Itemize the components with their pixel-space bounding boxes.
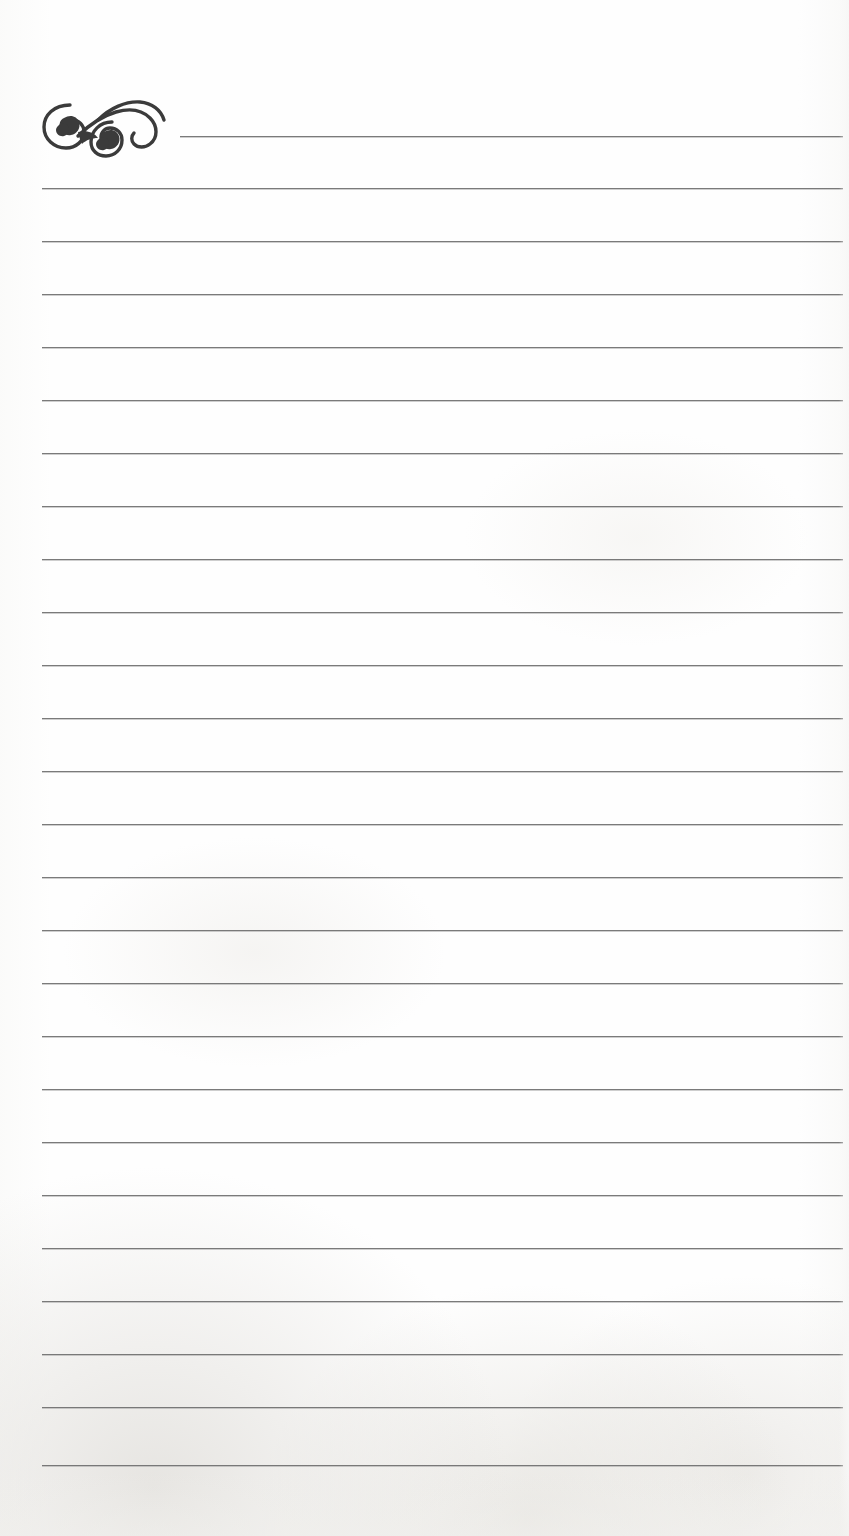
ruled-line — [42, 930, 843, 931]
ruled-line — [42, 453, 843, 454]
ruled-line — [42, 400, 843, 401]
ruled-line — [42, 824, 843, 825]
ruled-lines-container — [0, 0, 849, 1536]
notepaper-page — [0, 0, 849, 1536]
ruled-line — [42, 1036, 843, 1037]
ruled-line — [42, 1089, 843, 1090]
ruled-line — [42, 294, 843, 295]
ruled-line — [42, 1465, 843, 1466]
ruled-line — [42, 983, 843, 984]
ruled-line — [42, 188, 843, 189]
ruled-line — [42, 347, 843, 348]
ruled-line — [42, 612, 843, 613]
ruled-line — [42, 1354, 843, 1355]
ruled-line — [180, 136, 843, 137]
ruled-line — [42, 1301, 843, 1302]
ruled-line — [42, 771, 843, 772]
ruled-line — [42, 718, 843, 719]
ruled-line — [42, 559, 843, 560]
ruled-line — [42, 877, 843, 878]
ruled-line — [42, 665, 843, 666]
ruled-line — [42, 1142, 843, 1143]
ruled-line — [42, 241, 843, 242]
ruled-line — [42, 1195, 843, 1196]
ruled-line — [42, 1407, 843, 1408]
ruled-line — [42, 506, 843, 507]
ruled-line — [42, 1248, 843, 1249]
